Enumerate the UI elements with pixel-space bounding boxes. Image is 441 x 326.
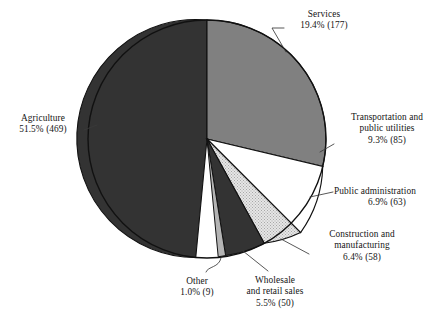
slice-label-wholesale-name-1: Wholesale (228, 275, 322, 286)
slice-label-other-value: 1.0% (9) (169, 287, 225, 298)
pie-slice-agriculture[interactable] (77, 19, 207, 257)
slice-label-construction: Construction and manufacturing 6.4% (58) (310, 229, 414, 263)
pie-chart-figure: Services 19.4% (177) Transportation and … (0, 0, 441, 326)
slice-label-transportation-value: 9.3% (85) (335, 135, 439, 146)
slice-label-services-value: 19.4% (177) (271, 20, 377, 31)
slice-label-public-administration-value: 6.9% (63) (334, 197, 440, 208)
leader-line-wholesale (243, 251, 268, 271)
slice-label-agriculture-name: Agriculture (2, 113, 84, 124)
slice-label-transportation: Transportation and public utilities 9.3%… (335, 112, 439, 146)
leader-line-construction (281, 239, 309, 254)
slice-label-wholesale-value: 5.5% (50) (228, 298, 322, 309)
slice-label-agriculture: Agriculture 51.5% (469) (2, 113, 84, 136)
pie-slices-group (77, 19, 326, 258)
slice-label-services-name: Services (271, 9, 377, 20)
slice-label-other: Other 1.0% (9) (169, 276, 225, 299)
slice-label-services: Services 19.4% (177) (271, 9, 377, 32)
slice-label-public-administration: Public administration 6.9% (63) (334, 186, 440, 209)
slice-label-other-name: Other (169, 276, 225, 287)
slice-label-public-administration-name: Public administration (334, 186, 440, 197)
slice-label-wholesale: Wholesale and retail sales 5.5% (50) (228, 275, 322, 309)
slice-label-wholesale-name-2: and retail sales (228, 286, 322, 297)
slice-label-construction-name-1: Construction and (310, 229, 414, 240)
leader-line-other (206, 258, 221, 272)
slice-label-construction-value: 6.4% (58) (310, 252, 414, 263)
slice-label-transportation-name-2: public utilities (335, 123, 439, 134)
slice-label-agriculture-value: 51.5% (469) (2, 124, 84, 135)
slice-label-construction-name-2: manufacturing (310, 240, 414, 251)
slice-label-transportation-name-1: Transportation and (335, 112, 439, 123)
